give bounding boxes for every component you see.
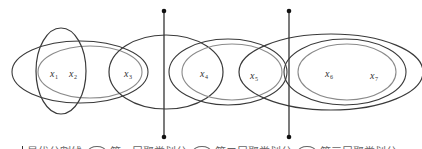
ellipse-icon [193, 146, 211, 149]
ellipse-icon [298, 146, 316, 149]
legend-label: 第一层聚类划分 [110, 143, 187, 149]
ellipse-icon [88, 146, 106, 149]
split-lines [162, 9, 292, 140]
split-2-bottom-dot [287, 135, 292, 140]
node-label-x7: x7 [369, 70, 378, 82]
node-label-x2: x2 [68, 68, 77, 80]
legend: 最优分割线 第一层聚类划分 第二层聚类划分 第三层聚类划分 [0, 141, 422, 149]
cluster-x6-x7-inner-ellipse [298, 44, 396, 100]
cluster-x1-x2-vertical-ellipse [36, 28, 86, 114]
legend-item-split-line: 最优分割线 [22, 143, 82, 149]
legend-label: 最优分割线 [27, 143, 82, 149]
node-labels: x1x2x3x4x5x6x7 [49, 68, 378, 82]
node-label-x3: x3 [123, 68, 132, 80]
cluster-x4-x5-outer-ellipse [169, 39, 287, 105]
node-label-x1: x1 [49, 68, 58, 80]
split-2-top-dot [287, 9, 292, 14]
legend-item-level-2: 第二层聚类划分 [193, 143, 292, 149]
node-label-x4: x4 [199, 68, 208, 80]
cluster-x6-x7-outer-ellipse [284, 39, 406, 105]
split-1-top-dot [162, 9, 167, 14]
node-label-x5: x5 [249, 70, 258, 82]
cluster-x4-x5-inner-ellipse [182, 44, 282, 100]
split-1-bottom-dot [162, 135, 167, 140]
legend-item-level-1: 第一层聚类划分 [88, 143, 187, 149]
legend-label: 第三层聚类划分 [320, 143, 397, 149]
cluster-ellipses [12, 28, 422, 114]
node-label-x6: x6 [324, 68, 333, 80]
split-line-icon [22, 146, 23, 149]
legend-item-level-3: 第三层聚类划分 [298, 143, 397, 149]
legend-label: 第二层聚类划分 [215, 143, 292, 149]
cluster-diagram: x1x2x3x4x5x6x7 [0, 0, 422, 149]
